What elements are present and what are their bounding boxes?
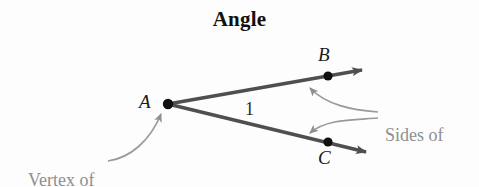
point-label-a: A [139, 91, 151, 112]
point-label-c: C [318, 147, 331, 168]
point-dot-c [323, 137, 332, 146]
annotation-vertex-line1: Vertex of [28, 170, 94, 187]
leader-line-side-lower [310, 118, 378, 133]
point-label-b: B [318, 44, 330, 65]
annotation-sides-of-the-angle: Sides of the angle [385, 85, 450, 187]
annotation-vertex-of-the-angle: Vertex of the angle [28, 130, 94, 187]
leader-line-side-upper [310, 88, 378, 112]
annotation-sides-line2: the angle [385, 186, 450, 187]
ray-ac [168, 104, 366, 152]
angle-number-label: 1 [245, 99, 254, 119]
annotation-sides-line1: Sides of [385, 125, 450, 145]
leader-line-vertex [108, 114, 161, 161]
angle-figure-page: Angle A B C 1 Vertex of [0, 0, 479, 187]
ray-ab [168, 70, 362, 104]
point-dot-b [323, 71, 332, 80]
point-dot-a [163, 99, 173, 109]
